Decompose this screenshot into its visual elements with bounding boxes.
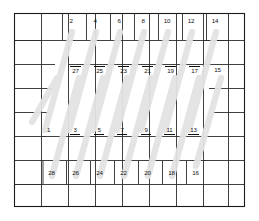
ref-label-3: 3 — [70, 127, 80, 135]
ref-label-7: 7 — [117, 127, 127, 135]
ref-label-18: 18 — [166, 170, 177, 176]
ref-label-16: 16 — [190, 170, 201, 176]
ref-label-25: 25 — [94, 66, 105, 74]
ref-label-22: 22 — [118, 170, 129, 176]
ref-label-27: 27 — [70, 66, 81, 74]
ref-label-1: 1 — [44, 127, 53, 133]
grid-diagram-svg — [0, 0, 259, 221]
ref-label-2: 2 — [66, 18, 76, 24]
figure-canvas: 2 4 6 8 10 12 14 27 25 23 21 19 17 15 1 … — [0, 0, 259, 221]
ref-label-19: 19 — [165, 66, 176, 74]
ref-label-9: 9 — [141, 127, 151, 135]
ref-label-8: 8 — [138, 18, 148, 24]
ref-label-14: 14 — [209, 18, 221, 24]
ref-label-15: 15 — [212, 67, 223, 73]
ref-label-23: 23 — [118, 66, 129, 74]
ref-label-24: 24 — [94, 170, 105, 176]
ref-label-26: 26 — [70, 170, 81, 176]
ref-label-10: 10 — [161, 18, 173, 24]
ref-label-13: 13 — [188, 127, 199, 135]
ref-label-12: 12 — [185, 18, 197, 24]
ref-label-5: 5 — [94, 127, 104, 135]
ref-label-28: 28 — [46, 170, 57, 176]
ref-label-17: 17 — [189, 66, 200, 74]
ref-label-4: 4 — [90, 18, 100, 24]
ref-label-21: 21 — [142, 66, 153, 74]
ref-label-6: 6 — [114, 18, 124, 24]
ref-label-20: 20 — [142, 170, 153, 176]
ref-label-11: 11 — [164, 127, 175, 135]
